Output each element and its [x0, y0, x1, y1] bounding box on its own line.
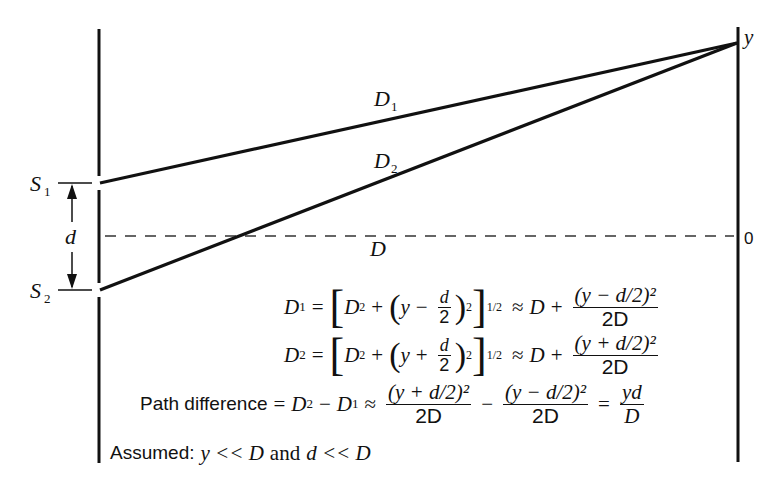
pd-term1-sub: 2	[306, 396, 313, 412]
eq2-lhs: D	[284, 343, 299, 368]
eq2-plus-sign: +	[416, 343, 428, 368]
eq2-d-over-2: d 2	[438, 336, 451, 375]
pd-term1: D	[291, 392, 306, 417]
eq2-frac-num: d	[438, 336, 451, 356]
eq2-lhs-sub: 2	[299, 347, 306, 363]
eq2-approx: ≈	[512, 343, 524, 368]
eq1-rhs-num: (y − d/2)²	[573, 284, 658, 307]
label-distance: D	[369, 236, 386, 261]
eq2-bracket-sup: 1/2	[487, 348, 502, 363]
eq2-rhs-D: D	[530, 343, 545, 368]
eq2-rhs-plus: +	[551, 343, 563, 368]
label-d2-sub: 2	[391, 161, 398, 176]
eq1-rhs-fraction: (y − d/2)² 2D	[573, 284, 658, 329]
pd-minus-2: −	[481, 392, 493, 417]
eq1-bracket-close: ]	[472, 284, 487, 330]
eq2-equals: =	[312, 343, 324, 368]
label-d1: D	[373, 86, 390, 111]
eq1-rhs-plus: +	[551, 295, 563, 320]
equation-d2: D2 = [ D2 + ( y + d 2 )2 ]1/2 ≈ D + (y +…	[284, 332, 662, 378]
eq1-paren-close: )	[455, 290, 466, 324]
pd-frac2-num: (y − d/2)²	[503, 381, 588, 404]
eq1-bracket-open: [	[330, 284, 345, 330]
label-d1-sub: 1	[391, 99, 398, 114]
eq2-rhs-num: (y + d/2)²	[573, 332, 658, 355]
label-origin: 0	[744, 229, 753, 248]
eq1-D: D	[344, 295, 359, 320]
eq2-D-sup: 2	[359, 348, 365, 363]
label-s1-sub: 1	[44, 184, 51, 199]
assumed-label: Assumed:	[110, 442, 194, 464]
eq1-paren-open: (	[389, 290, 400, 324]
eq2-paren-close: )	[455, 338, 466, 372]
pd-result-den: D	[624, 405, 639, 427]
arrowhead-up-icon	[67, 184, 77, 199]
ray-d1	[100, 43, 737, 183]
label-s1: S	[30, 171, 41, 196]
ray-d2	[100, 43, 737, 290]
pd-fraction-1: (y + d/2)² 2D	[386, 381, 471, 426]
label-d2: D	[373, 148, 390, 173]
eq2-bracket-open: [	[330, 332, 345, 378]
eq1-D-sup: 2	[359, 300, 365, 315]
path-difference-label: Path difference	[140, 393, 267, 415]
pd-equals: =	[273, 392, 285, 417]
label-s2: S	[30, 278, 41, 303]
double-slit-diagram: y 0 S 1 S 2 d D 1 D 2 D D1 = [ D2 + ( y …	[0, 0, 777, 490]
assumption-cond1: y << D	[200, 441, 263, 466]
pd-frac2-den: 2D	[532, 405, 559, 427]
eq1-approx: ≈	[512, 295, 524, 320]
eq1-rhs-den: 2D	[602, 308, 629, 330]
eq1-plus: +	[371, 295, 383, 320]
eq1-bracket-sup: 1/2	[487, 300, 502, 315]
pd-result-num: yd	[620, 381, 644, 404]
eq2-plus: +	[371, 343, 383, 368]
assumption-cond2: d << D	[306, 441, 371, 466]
eq2-y: y	[401, 343, 410, 368]
pd-fraction-2: (y − d/2)² 2D	[503, 381, 588, 426]
eq2-frac-den: 2	[439, 356, 449, 375]
eq1-lhs: D	[284, 295, 299, 320]
label-s2-sub: 2	[44, 291, 51, 306]
eq2-paren-open: (	[389, 338, 400, 372]
pd-result-fraction: yd D	[620, 381, 644, 426]
pd-term2: D	[337, 392, 352, 417]
pd-equals-2: =	[598, 392, 610, 417]
equation-path-difference: Path difference = D2 − D1 ≈ (y + d/2)² 2…	[140, 379, 648, 429]
pd-term2-sub: 1	[352, 396, 359, 412]
label-d: d	[65, 224, 77, 249]
eq1-minus: −	[416, 295, 428, 320]
pd-frac1-den: 2D	[415, 405, 442, 427]
eq1-equals: =	[312, 295, 324, 320]
eq1-lhs-sub: 1	[299, 299, 306, 315]
assumption-and: and	[270, 441, 300, 466]
eq2-bracket-close: ]	[472, 332, 487, 378]
equation-d1: D1 = [ D2 + ( y − d 2 )2 ]1/2 ≈ D + (y −…	[284, 284, 662, 330]
eq2-rhs-den: 2D	[602, 356, 629, 378]
pd-approx: ≈	[365, 392, 377, 417]
arrowhead-down-icon	[67, 274, 77, 289]
label-y: y	[742, 25, 754, 49]
assumption-line: Assumed: y << D and d << D	[110, 440, 371, 466]
eq1-y: y	[401, 295, 410, 320]
pd-frac1-num: (y + d/2)²	[386, 381, 471, 404]
eq1-rhs-D: D	[530, 295, 545, 320]
eq1-d-over-2: d 2	[438, 288, 451, 327]
eq2-D: D	[344, 343, 359, 368]
eq1-frac-den: 2	[439, 308, 449, 327]
eq1-frac-num: d	[438, 288, 451, 308]
eq2-rhs-fraction: (y + d/2)² 2D	[573, 332, 658, 377]
pd-minus: −	[319, 392, 331, 417]
